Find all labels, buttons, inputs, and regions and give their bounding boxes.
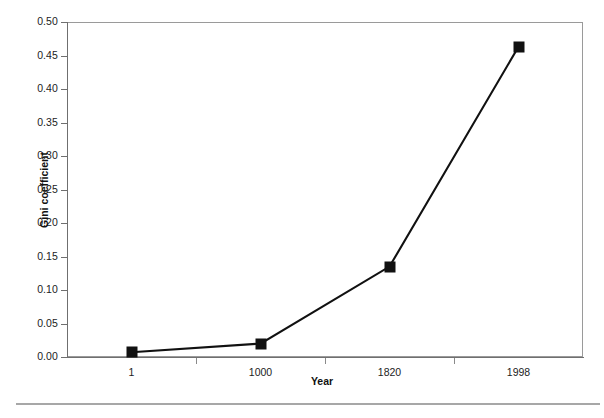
y-axis-tick-mark [61, 89, 67, 90]
x-axis-tick-mark [196, 358, 197, 364]
y-axis-tick-mark [61, 190, 67, 191]
x-axis-tick-label: 1820 [350, 366, 430, 378]
plot-area [67, 22, 583, 357]
y-axis-tick-mark [61, 22, 67, 23]
y-axis-tick-mark [61, 223, 67, 224]
y-axis-tick-label: 0.45 [18, 49, 58, 61]
y-axis-title: Gini coefficient [38, 152, 50, 228]
x-axis-tick-label: 1998 [479, 366, 559, 378]
y-axis-line [67, 22, 68, 358]
y-axis-tick-mark [61, 324, 67, 325]
y-axis-tick-label: 0.35 [18, 116, 58, 128]
x-axis-title: Year [311, 375, 333, 387]
data-point-marker [513, 41, 524, 52]
line-chart-figure: 0.500.450.400.350.300.250.200.150.100.05… [0, 0, 604, 418]
y-axis-tick-mark [61, 257, 67, 258]
data-point-marker [384, 261, 395, 272]
x-axis-tick-label: 1 [92, 366, 172, 378]
y-axis-tick-label: 0.40 [18, 82, 58, 94]
y-axis-tick-mark [61, 56, 67, 57]
y-axis-tick-mark [61, 357, 67, 358]
footer-divider [16, 403, 600, 405]
y-axis-tick-label: 0.50 [18, 15, 58, 27]
data-point-marker [126, 347, 137, 358]
x-axis-tick-mark [454, 358, 455, 364]
x-axis-tick-mark [325, 358, 326, 364]
y-axis-tick-label: 0.10 [18, 283, 58, 295]
y-axis-tick-mark [61, 123, 67, 124]
y-axis-tick-mark [61, 290, 67, 291]
y-axis-tick-label: 0.00 [18, 350, 58, 362]
data-point-marker [255, 338, 266, 349]
y-axis-tick-mark [61, 156, 67, 157]
x-axis-tick-label: 1000 [221, 366, 301, 378]
y-axis-tick-label: 0.05 [18, 317, 58, 329]
y-axis-tick-label: 0.15 [18, 250, 58, 262]
